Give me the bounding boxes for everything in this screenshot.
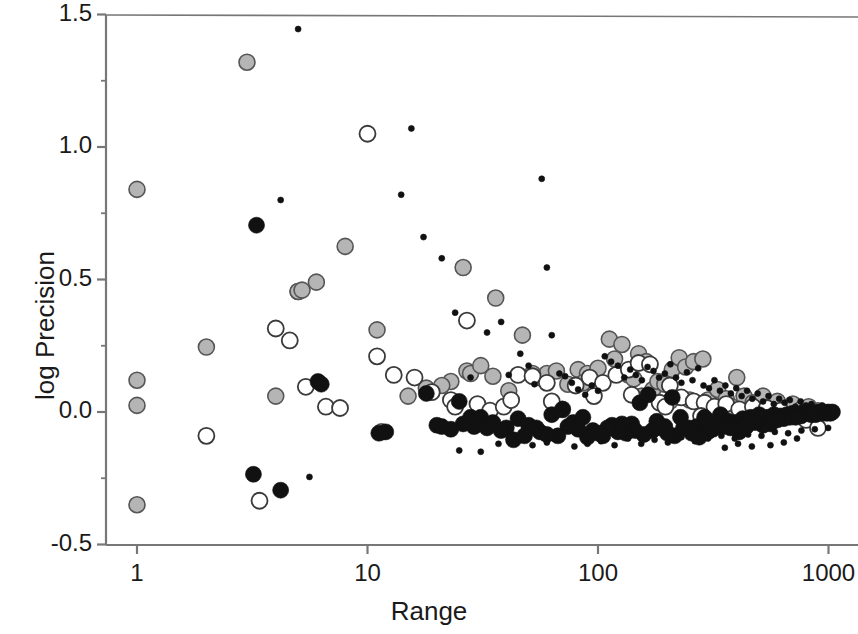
y-tick-label: 0.5 [59,264,92,292]
data-point [360,126,376,142]
data-point [638,441,644,447]
data-point [695,351,711,367]
data-point [739,393,745,399]
data-point [667,361,673,367]
y-tick-label: 1.0 [59,131,92,159]
data-point [718,433,724,439]
data-point [418,385,434,401]
data-points [129,26,840,513]
data-point [484,330,490,336]
data-point [825,425,831,431]
data-point [602,353,608,359]
data-point [749,396,755,402]
data-point [498,319,504,325]
data-point [198,339,214,355]
plot-frame [106,15,858,545]
data-point [765,393,771,399]
data-point [531,381,537,387]
data-point [245,466,261,482]
data-point [625,436,631,442]
y-tick-label: 0.0 [59,396,92,424]
data-point [539,176,545,182]
data-point [252,493,268,509]
data-point [819,402,825,408]
data-point [728,390,734,396]
data-point [678,434,684,440]
data-point [514,327,530,343]
data-point [767,442,773,448]
data-point [295,26,301,32]
data-point [695,365,701,371]
data-point [544,439,550,445]
data-point [294,282,310,298]
data-point [589,383,595,389]
data-point [451,393,467,409]
data-point [798,428,804,434]
data-point [337,238,353,254]
data-point [662,371,668,377]
x-tick-label: 1 [77,559,197,587]
data-point [785,430,791,436]
data-point [443,421,459,437]
data-point [792,404,798,410]
data-point [468,375,474,381]
data-point [692,438,698,444]
data-point [488,290,504,306]
data-point [407,370,423,386]
data-point [598,438,604,444]
data-point [485,368,501,384]
data-point [332,400,348,416]
data-point [400,388,416,404]
data-point [278,197,284,203]
data-point [478,449,484,455]
data-point [744,388,750,394]
data-point [717,388,723,394]
data-point [273,482,289,498]
data-point [129,372,145,388]
data-point [554,401,570,417]
data-point [678,380,684,386]
data-point [722,383,728,389]
data-point [369,348,385,364]
data-point [729,370,745,386]
data-point [239,54,255,70]
data-point [615,363,621,369]
data-point [515,436,521,442]
data-point [378,424,394,440]
data-point [749,443,755,449]
data-point [571,443,577,449]
data-point [582,392,588,398]
data-point [459,313,475,329]
data-point [798,398,804,404]
data-point [706,385,712,391]
data-point [701,383,707,389]
data-point [673,375,679,381]
data-point [282,332,298,348]
data-point [665,439,671,445]
data-point [455,260,471,276]
data-point [758,433,764,439]
data-point [517,351,523,357]
data-point [198,428,214,444]
data-point [398,192,404,198]
data-point [639,377,645,383]
data-point [503,392,519,408]
x-tick-label: 1000 [769,559,858,587]
data-point [386,367,402,383]
data-point [794,436,800,442]
data-point [803,402,809,408]
data-point [722,445,728,451]
data-point [595,388,601,394]
data-point [544,265,550,271]
data-point [772,429,778,435]
data-point [584,441,590,447]
data-point [249,217,265,233]
data-point [645,364,651,370]
data-point [575,386,581,392]
data-point [558,436,564,442]
axis-ticks [97,15,829,555]
data-point [429,417,445,433]
data-point [776,396,782,402]
data-point [808,401,814,407]
data-point [621,375,627,381]
